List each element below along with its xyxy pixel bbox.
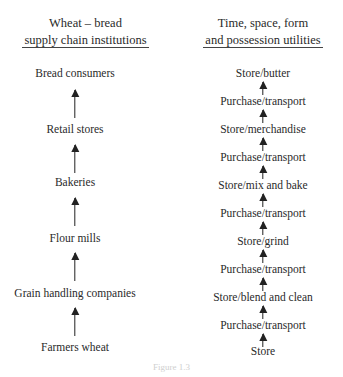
left-item-flour-mills: Flour mills xyxy=(50,232,101,244)
left-item-farmers-wheat: Farmers wheat xyxy=(41,341,109,353)
arrow-up-icon xyxy=(74,90,75,118)
arrow-up-icon xyxy=(262,306,263,319)
arrow-up-icon xyxy=(262,110,263,123)
right-item-9: Purchase/transport xyxy=(220,319,306,331)
right-item-1: Purchase/transport xyxy=(220,95,306,107)
arrow-up-icon xyxy=(262,250,263,263)
arrow-up-icon xyxy=(262,194,263,207)
right-item-4: Store/mix and bake xyxy=(218,179,307,191)
right-item-5: Purchase/transport xyxy=(220,207,306,219)
right-item-0: Store/butter xyxy=(236,67,290,79)
arrow-up-icon xyxy=(262,82,263,95)
left-item-bakeries: Bakeries xyxy=(55,176,95,188)
left-item-retail-stores: Retail stores xyxy=(46,123,103,135)
arrow-up-icon xyxy=(74,308,75,336)
arrow-up-icon xyxy=(74,198,75,226)
arrow-up-icon xyxy=(262,222,263,235)
left-column-header: Wheat – bread supply chain institutions xyxy=(0,15,171,49)
arrow-up-icon xyxy=(262,278,263,291)
right-column-header: Time, space, form and possession utiliti… xyxy=(183,15,343,49)
arrow-up-icon xyxy=(262,138,263,151)
right-item-8: Store/blend and clean xyxy=(213,291,313,303)
left-header-line2: supply chain institutions xyxy=(22,33,148,48)
right-item-6: Store/grind xyxy=(237,235,289,247)
right-item-7: Purchase/transport xyxy=(220,263,306,275)
right-item-10: Store xyxy=(251,345,275,357)
arrow-up-icon xyxy=(74,253,75,281)
arrow-up-icon xyxy=(74,145,75,173)
arrow-up-icon xyxy=(262,166,263,179)
left-item-bread-consumers: Bread consumers xyxy=(35,67,115,79)
figure-caption: Figure 1.3 xyxy=(0,362,343,372)
left-item-grain-handling: Grain handling companies xyxy=(14,287,135,299)
right-header-line1: Time, space, form xyxy=(183,15,343,32)
left-header-line1: Wheat – bread xyxy=(0,15,171,32)
right-header-line2: and possession utilities xyxy=(203,33,322,48)
right-item-3: Purchase/transport xyxy=(220,151,306,163)
right-item-2: Store/merchandise xyxy=(220,123,306,135)
